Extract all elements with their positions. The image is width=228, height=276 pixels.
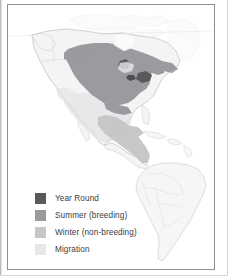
scan-edge-right (227, 0, 228, 276)
cuba-island (144, 131, 166, 139)
range-legend: Year Round Summer (breeding) Winter (non… (35, 190, 175, 258)
legend-swatch-year-round (35, 193, 46, 204)
legend-item-year-round: Year Round (35, 190, 175, 207)
legend-swatch-migration (35, 244, 46, 255)
legend-swatch-winter-non-breeding (35, 227, 46, 238)
scan-edge-left-inner (1, 0, 2, 276)
lesser-antilles (184, 145, 192, 157)
legend-label-migration: Migration (55, 244, 90, 255)
legend-item-migration: Migration (35, 241, 175, 258)
legend-item-winter-non-breeding: Winter (non-breeding) (35, 224, 175, 241)
florida-peninsula (142, 105, 150, 125)
range-map-figure: Year Round Summer (breeding) Winter (non… (0, 0, 228, 276)
legend-label-summer-breeding: Summer (breeding) (55, 210, 127, 221)
legend-label-winter-non-breeding: Winter (non-breeding) (55, 227, 137, 238)
legend-item-summer-breeding: Summer (breeding) (35, 207, 175, 224)
legend-label-year-round: Year Round (55, 193, 99, 204)
legend-swatch-summer-breeding (35, 210, 46, 221)
hispaniola-island (168, 139, 182, 145)
